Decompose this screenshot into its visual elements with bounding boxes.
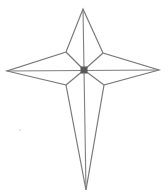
star-diagram [0, 0, 168, 195]
vertical-axis-line [83, 9, 86, 190]
center-square [81, 67, 88, 74]
speck-mark [19, 129, 20, 130]
